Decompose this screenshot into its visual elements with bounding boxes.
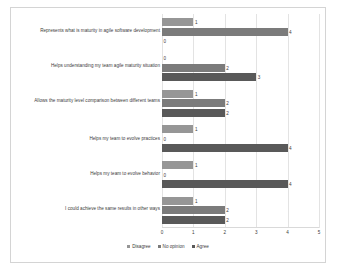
bar — [162, 73, 256, 81]
bar-row: 2 — [162, 109, 319, 117]
x-tick-label: 3 — [255, 230, 258, 235]
legend-swatch-icon — [158, 245, 161, 248]
bar — [162, 216, 225, 224]
bar-row: 1 — [162, 125, 319, 133]
bar-row: 2 — [162, 64, 319, 72]
x-tick-label: 1 — [192, 230, 195, 235]
chart-plot-wrapper: Represents what is maturity in agile sof… — [11, 8, 325, 262]
bar-group: 104 — [162, 161, 319, 188]
bar-value-label: 4 — [288, 146, 292, 151]
x-tick-label: 2 — [224, 230, 227, 235]
bar-row: 2 — [162, 206, 319, 214]
bar-row: 4 — [162, 28, 319, 36]
bar-row: 0 — [162, 37, 319, 45]
bar-group: 104 — [162, 125, 319, 152]
bar — [162, 64, 225, 72]
plot-area: 140023122104104122 — [162, 14, 319, 228]
bar-value-label: 1 — [193, 127, 197, 132]
bar-group: 122 — [162, 90, 319, 117]
bar-value-label: 2 — [225, 65, 229, 70]
bar-value-label: 2 — [225, 101, 229, 106]
bar — [162, 161, 193, 169]
legend-swatch-icon — [192, 245, 195, 248]
category-label: Allows the maturity level comparison bet… — [20, 98, 160, 104]
x-axis-line — [162, 227, 319, 228]
bar — [162, 109, 225, 117]
gridline — [319, 14, 320, 228]
bar — [162, 125, 193, 133]
bar-row: 4 — [162, 180, 319, 188]
bar-value-label: 0 — [162, 39, 166, 44]
bar — [162, 144, 288, 152]
bar-value-label: 4 — [288, 182, 292, 187]
category-label: Helps my team to evolve practices — [20, 136, 160, 142]
legend-item[interactable]: Agree — [192, 244, 209, 249]
bar-row: 1 — [162, 90, 319, 98]
legend-swatch-icon — [127, 245, 130, 248]
bar-row: 0 — [162, 135, 319, 143]
bar — [162, 90, 193, 98]
bar-value-label: 2 — [225, 110, 229, 115]
bar-value-label: 0 — [162, 56, 166, 61]
category-label: I could achieve the same results in othe… — [20, 206, 160, 212]
bar-group: 140 — [162, 18, 319, 45]
bar — [162, 99, 225, 107]
legend-label: No opinion — [163, 244, 185, 249]
bar-row: 1 — [162, 161, 319, 169]
bar-group: 122 — [162, 197, 319, 224]
bar-value-label: 4 — [288, 29, 292, 34]
category-label: Helps understanding my team agile maturi… — [20, 63, 160, 69]
bar-value-label: 1 — [193, 20, 197, 25]
bar-value-label: 1 — [193, 198, 197, 203]
x-tick-label: 4 — [286, 230, 289, 235]
legend-item[interactable]: No opinion — [158, 244, 185, 249]
bar-row: 0 — [162, 54, 319, 62]
bar — [162, 180, 288, 188]
x-tick-label: 0 — [161, 230, 164, 235]
bar-group: 023 — [162, 54, 319, 81]
bar-value-label: 0 — [162, 136, 166, 141]
bar — [162, 206, 225, 214]
bar-value-label: 3 — [256, 75, 260, 80]
bar-row: 0 — [162, 171, 319, 179]
legend-item[interactable]: Disagree — [127, 244, 150, 249]
bar — [162, 28, 288, 36]
bar-value-label: 2 — [225, 208, 229, 213]
bar-row: 2 — [162, 216, 319, 224]
bar-value-label: 1 — [193, 163, 197, 168]
bar-row: 3 — [162, 73, 319, 81]
legend-label: Agree — [197, 244, 209, 249]
bar-value-label: 1 — [193, 91, 197, 96]
bar — [162, 18, 193, 26]
chart-figure: Represents what is maturity in agile sof… — [10, 7, 326, 263]
chart-legend: DisagreeNo opinionAgree — [11, 244, 325, 249]
bar-row: 2 — [162, 99, 319, 107]
bar-row: 1 — [162, 197, 319, 205]
legend-label: Disagree — [132, 244, 150, 249]
bar-row: 1 — [162, 18, 319, 26]
category-label: Helps my team to evolve behavior — [20, 171, 160, 177]
bar — [162, 197, 193, 205]
category-label: Represents what is maturity in agile sof… — [20, 28, 160, 34]
x-tick-label: 5 — [318, 230, 321, 235]
bar-value-label: 0 — [162, 172, 166, 177]
bar-value-label: 2 — [225, 217, 229, 222]
bar-row: 4 — [162, 144, 319, 152]
